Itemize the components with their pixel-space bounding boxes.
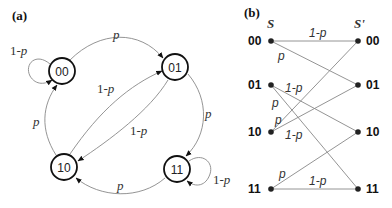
panel-b-label: (b) [244,5,260,20]
transition-label-10-00: p [274,113,282,127]
edge-label-11-11: 1-p [213,172,231,187]
panel-b-trellis-diagram: (b) S S' 1-p p 1-p p p 1-p p 1-p 00 01 1… [244,5,380,196]
transition-label-00-01: p [277,49,285,63]
panel-a-label: (a) [12,8,27,23]
svg-text:11: 11 [171,163,184,177]
svg-text:00: 00 [366,34,380,48]
edge-label-01-11: p [204,106,212,121]
right-column-header: S' [354,16,365,31]
left-state-11: 11 [248,182,274,196]
svg-text:01: 01 [168,61,182,75]
left-state-10: 10 [248,125,274,139]
edge-10-00 [45,85,57,155]
svg-text:11: 11 [366,182,379,196]
edge-label-00-00: 1-p [10,43,28,58]
edge-label-10-00: p [32,114,40,129]
right-state-10: 10 [355,125,379,139]
left-column-header: S [267,16,274,31]
svg-text:00: 00 [55,65,69,79]
svg-text:01: 01 [248,78,262,92]
edge-label-00-01: p [112,27,120,42]
transition-label-11-10: p [278,167,286,181]
left-state-01: 01 [248,78,274,92]
svg-text:10: 10 [248,125,262,139]
panel-a-state-diagram: (a) 1-p p 1-p 1-p p p p 1-p 00 [10,8,231,194]
edge-label-10-01: 1-p [97,81,115,96]
edge-label-01-10: 1-p [130,123,148,138]
markov-chain-figure: (a) 1-p p 1-p 1-p p p p 1-p 00 [0,0,392,208]
transition-label-00-00: 1-p [309,26,327,40]
right-state-11: 11 [355,182,379,196]
state-node-11: 11 [164,156,190,182]
right-state-01: 01 [355,78,379,92]
svg-text:10: 10 [366,125,380,139]
edge-10-01 [70,71,162,154]
edge-label-11-10: p [116,178,124,193]
transition-label-11-11: 1-p [309,174,327,188]
left-state-00: 00 [248,34,274,48]
state-node-00: 00 [49,58,75,84]
svg-text:01: 01 [366,78,380,92]
right-state-00: 00 [355,34,379,48]
transition-00-01 [271,41,358,85]
svg-text:10: 10 [57,161,71,175]
svg-text:00: 00 [248,34,262,48]
transition-label-01-11: p [271,96,279,110]
state-node-10: 10 [51,154,77,180]
transition-label-10-01: 1-p [285,128,303,142]
svg-text:11: 11 [248,182,261,196]
edge-01-10 [78,80,168,161]
edge-01-11 [186,74,204,156]
transition-label-01-10: 1-p [285,81,303,95]
state-node-01: 01 [162,54,188,80]
